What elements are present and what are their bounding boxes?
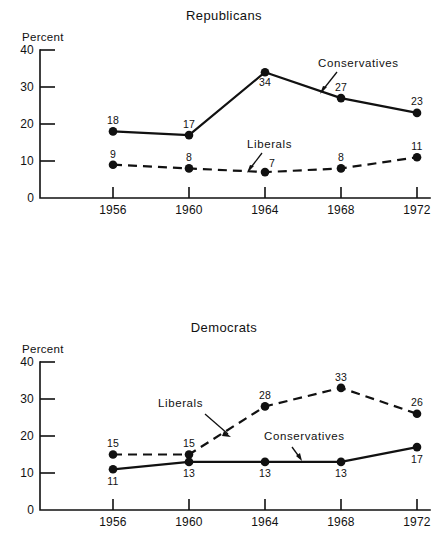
democrats-chart: Democrats Percent 40 30 20 10 0 1956 196…	[0, 297, 448, 547]
data-point-marker	[337, 384, 346, 393]
data-point-marker	[109, 127, 118, 136]
axis-lines	[40, 50, 430, 198]
data-point-marker	[413, 410, 422, 419]
data-point-marker	[413, 153, 422, 162]
annotation-arrow-conservatives	[292, 447, 302, 461]
axis-lines	[40, 362, 430, 510]
data-point-marker	[337, 458, 346, 467]
value-label: 18	[100, 114, 126, 126]
value-label: 7	[259, 157, 285, 169]
value-label: 15	[100, 437, 126, 449]
data-point-marker	[261, 458, 270, 467]
data-point-marker	[109, 465, 118, 474]
annotation-label-conservatives: Conservatives	[264, 430, 345, 442]
data-point-marker	[109, 450, 118, 459]
data-point-marker	[185, 164, 194, 173]
annotation-label-liberals: Liberals	[158, 397, 203, 409]
value-label: 28	[252, 389, 278, 401]
democrats-plot	[0, 297, 448, 547]
value-label: 17	[404, 453, 430, 465]
value-label: 13	[176, 467, 202, 479]
value-label: 13	[328, 467, 354, 479]
value-label: 11	[404, 140, 430, 152]
value-label: 27	[328, 81, 354, 93]
value-label: 17	[176, 118, 202, 130]
data-point-marker	[185, 450, 194, 459]
annotation-label-liberals: Liberals	[247, 138, 292, 150]
data-point-marker	[337, 164, 346, 173]
data-point-marker	[185, 458, 194, 467]
annotation-arrow-liberals	[205, 414, 231, 437]
value-label: 11	[100, 475, 126, 487]
value-label: 34	[252, 76, 278, 88]
value-label: 8	[176, 151, 202, 163]
data-point-marker	[109, 160, 118, 169]
value-label: 13	[252, 467, 278, 479]
data-point-marker	[337, 94, 346, 103]
republicans-plot	[0, 0, 448, 250]
annotation-label-conservatives: Conservatives	[318, 57, 399, 69]
data-point-marker	[413, 443, 422, 452]
value-label: 15	[176, 437, 202, 449]
value-label: 33	[328, 371, 354, 383]
data-point-marker	[413, 109, 422, 118]
data-point-marker	[261, 168, 270, 177]
value-label: 9	[100, 148, 126, 160]
republicans-chart: Republicans Percent 40 30 20 10 0 1956 1…	[0, 0, 448, 250]
value-label: 26	[404, 396, 430, 408]
value-label: 8	[328, 151, 354, 163]
value-label: 23	[404, 95, 430, 107]
data-point-marker	[261, 402, 270, 411]
data-point-marker	[185, 131, 194, 140]
